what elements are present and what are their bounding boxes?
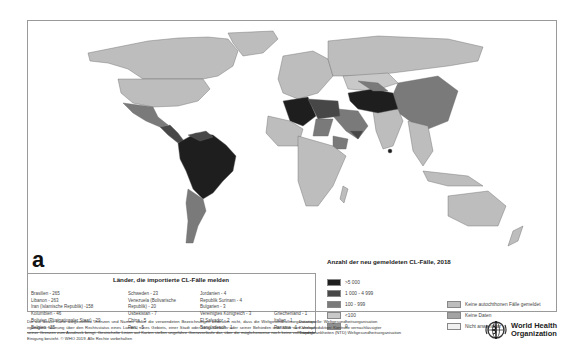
- import-entry: Schweden - 23: [128, 291, 176, 298]
- legend-item-gt-5000: >5 000: [327, 278, 360, 286]
- who-name: World Health Organization: [511, 322, 557, 337]
- region-europe: [278, 51, 333, 99]
- region-usa: [118, 79, 210, 107]
- legend-label: 100 - 999: [345, 302, 365, 307]
- region-canada-alaska: [88, 37, 238, 79]
- region-iran-afghanistan-pakistan: [348, 89, 398, 113]
- legend-swatch: [327, 290, 341, 297]
- disclaimer-text: Die auf dieser Karte dargestellten Grenz…: [27, 319, 315, 341]
- region-ethiopia: [333, 136, 348, 149]
- import-entry: Bulgarien - 3: [200, 304, 251, 311]
- legend-item-lt-100: <100: [327, 311, 356, 319]
- region-australia: [448, 191, 506, 226]
- region-central-america: [160, 125, 184, 143]
- legend-title: Anzahl der neu gemeldeten CL-Fälle, 2018: [327, 258, 451, 265]
- import-entry: Republik) - 20: [128, 304, 176, 311]
- import-entry: [274, 298, 307, 305]
- who-name-line: Organization: [511, 330, 557, 338]
- legend-item-no-data: Keine Daten: [447, 311, 491, 319]
- import-entry: Libanon - 263: [31, 298, 101, 305]
- legend-label: Keine autochthonen Fälle gemeldet: [465, 302, 540, 307]
- source-line: Tropenkrankheiten (NTD) Weltgesundheitso…: [299, 330, 401, 336]
- region-sudan: [313, 119, 333, 136]
- legend-swatch: [327, 279, 341, 286]
- import-entry: Kolumbien - 46: [31, 311, 101, 318]
- who-logo: World Health Organization: [484, 320, 557, 340]
- import-entry: Jordanien - 4: [200, 291, 251, 298]
- region-russia: [328, 36, 483, 76]
- legend-swatch: [447, 323, 461, 330]
- legend-label: 1 000 - 4 999: [345, 291, 373, 296]
- legend-label: <100: [345, 313, 356, 318]
- legend-label: >5 000: [345, 280, 360, 285]
- legend-item-100-999: 100 - 999: [327, 300, 365, 308]
- region-brazil-andes: [178, 133, 236, 199]
- legend-item-no-autochthonous: Keine autochthonen Fälle gemeldet: [447, 300, 540, 308]
- import-entry: Brasilien - 265: [31, 291, 101, 298]
- legend-swatch: [447, 312, 461, 319]
- legend-label: Keine Daten: [465, 313, 491, 318]
- who-emblem-icon: [484, 320, 508, 340]
- import-entry: [274, 304, 307, 311]
- region-sri-lanka: [388, 149, 392, 153]
- import-entry: Venezuela (Bolivarische: [128, 298, 176, 305]
- data-source: Datenquelle: Weltgesundheitsorganisation…: [299, 319, 401, 336]
- region-indonesia: [423, 171, 483, 186]
- map-frame: a Länder, die importierte CL-Fälle melde…: [27, 20, 557, 312]
- import-entry: Iran (Islamische Republik) -158: [31, 304, 101, 311]
- region-india: [373, 109, 403, 149]
- import-entry: Usbekistan - 7: [128, 311, 176, 318]
- panel-label: a: [32, 249, 44, 271]
- legend-item-1000-4999: 1 000 - 4 999: [327, 289, 373, 297]
- import-entry: Griechenland - 1: [274, 311, 307, 318]
- region-new-zealand: [508, 226, 523, 246]
- import-entry: Vereinigtes Königreich - 3: [200, 311, 251, 318]
- imported-cases-title: Länder, die importierte CL-Fälle melden: [27, 276, 315, 283]
- world-map: [28, 21, 558, 249]
- legend-swatch: [327, 312, 341, 319]
- import-entry: Republik Surinam - 4: [200, 298, 251, 305]
- import-entry: [274, 291, 307, 298]
- region-madagascar: [340, 186, 348, 203]
- legend-swatch: [447, 301, 461, 308]
- legend-swatch: [327, 301, 341, 308]
